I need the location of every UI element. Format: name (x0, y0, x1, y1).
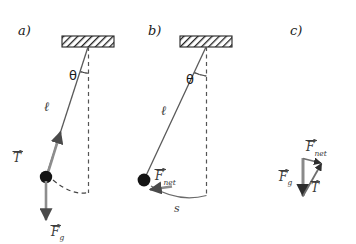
gravity-label-text-a: F (50, 225, 60, 239)
tension-label-c: T (311, 181, 321, 195)
arc-length-label-b: s (174, 202, 180, 215)
ceiling-hatch-b (180, 36, 232, 47)
string-length-label-a: ℓ (44, 99, 50, 114)
pendulum-bob-b (138, 174, 151, 187)
gravity-label-subscript-c: g (288, 178, 293, 187)
panel-a-label: a) (18, 23, 31, 38)
tension-label-text-a: T (13, 151, 22, 165)
net-force-label-text-b: F (154, 169, 164, 183)
gravity-label-text-c: F (278, 170, 288, 184)
pendulum-figure: a) θ ℓ T F g b) (0, 0, 356, 244)
net-force-label-subscript-b: net (164, 178, 177, 187)
angle-theta-label-b: θ (186, 72, 194, 87)
net-force-label-text-c: F (305, 140, 315, 154)
ceiling-a (62, 36, 114, 47)
ceiling-hatch-a (62, 36, 114, 47)
string-length-label-b: ℓ (161, 103, 167, 118)
tension-label-text-c: T (311, 181, 320, 195)
panel-c-label: c) (290, 23, 302, 38)
gravity-label-subscript-a: g (60, 233, 65, 242)
ceiling-b (180, 36, 232, 47)
panel-b-label: b) (148, 23, 161, 38)
net-force-label-subscript-c: net (315, 149, 328, 158)
angle-theta-label-a: θ (69, 68, 77, 83)
